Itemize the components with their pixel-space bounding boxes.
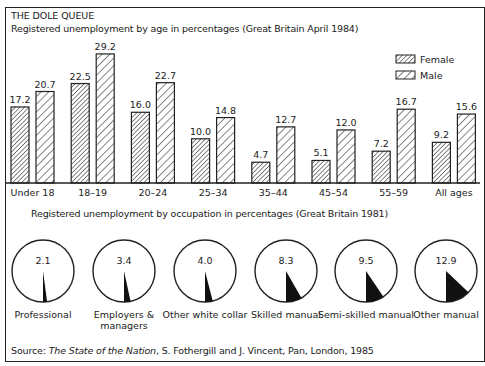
- pie-category-label: managers: [100, 320, 148, 331]
- category-label: Under 18: [11, 187, 55, 198]
- pie-value-label: 9.5: [358, 255, 373, 266]
- category-label: 20–24: [138, 187, 167, 198]
- pie-value-label: 8.3: [278, 255, 293, 266]
- pie-category-label: Other white collar: [162, 309, 247, 320]
- pie-chart: 4.0Other white collar: [162, 240, 247, 320]
- category-label: 25–34: [199, 187, 228, 198]
- age-bar-chart: 17.220.7Under 1822.529.218–1916.022.720–…: [5, 41, 480, 198]
- pie-category-label: Professional: [14, 309, 71, 320]
- bar-female: [131, 112, 149, 183]
- bar-value-label: 10.0: [190, 126, 211, 137]
- bar-legend: FemaleMale: [396, 54, 455, 81]
- bar-value-label: 17.2: [9, 94, 30, 105]
- legend-label: Male: [420, 70, 443, 81]
- bar-female: [252, 162, 270, 183]
- bar-value-label: 5.1: [313, 147, 328, 158]
- bar-male: [96, 54, 114, 183]
- bar-male: [337, 130, 355, 183]
- bar-male: [457, 114, 475, 183]
- bar-male: [397, 109, 415, 183]
- legend-swatch-male: [396, 71, 415, 79]
- pie-value-label: 4.0: [197, 255, 212, 266]
- bar-value-label: 4.7: [253, 149, 268, 160]
- category-label: All ages: [435, 187, 472, 198]
- pie-chart: 12.9Other manual: [413, 240, 479, 320]
- bar-male: [277, 127, 295, 183]
- pie-chart: 8.3Skilled manual: [251, 240, 321, 320]
- bar-value-label: 22.7: [155, 70, 176, 81]
- bar-female: [432, 142, 450, 183]
- pie-value-label: 12.9: [435, 255, 456, 266]
- bar-value-label: 12.7: [275, 114, 296, 125]
- bar-female: [312, 160, 330, 183]
- bar-male: [156, 83, 174, 183]
- bar-value-label: 7.2: [374, 138, 389, 149]
- bar-male: [36, 92, 54, 183]
- bar-value-label: 20.7: [34, 79, 55, 90]
- bar-female: [11, 107, 29, 183]
- bar-value-label: 29.2: [95, 41, 116, 52]
- legend-label: Female: [420, 54, 455, 65]
- bar-value-label: 15.6: [456, 101, 477, 112]
- pie-category-label: Employers &: [94, 309, 155, 320]
- bar-female: [192, 139, 210, 183]
- category-label: 35–44: [259, 187, 288, 198]
- bar-value-label: 12.0: [335, 117, 356, 128]
- legend-swatch-female: [396, 55, 415, 63]
- bar-female: [71, 84, 89, 183]
- pie-chart: 3.4Employers &managers: [93, 240, 155, 331]
- category-label: 18–19: [78, 187, 107, 198]
- pie-value-label: 3.4: [116, 255, 131, 266]
- bar-female: [372, 151, 390, 183]
- bar-value-label: 22.5: [70, 71, 91, 82]
- pie-value-label: 2.1: [35, 255, 50, 266]
- category-label: 45–54: [319, 187, 348, 198]
- bar-value-label: 16.0: [130, 99, 151, 110]
- occupation-pie-charts: 2.1Professional3.4Employers &managers4.0…: [12, 240, 479, 331]
- bar-male: [217, 118, 235, 183]
- pie-category-label: Skilled manual: [251, 309, 321, 320]
- pie-chart: 9.5Semi-skilled manual: [318, 240, 414, 320]
- pie-category-label: Other manual: [413, 309, 479, 320]
- pie-chart: 2.1Professional: [12, 240, 74, 320]
- bar-value-label: 14.8: [215, 105, 236, 116]
- bar-value-label: 16.7: [396, 96, 417, 107]
- pie-category-label: Semi-skilled manual: [318, 309, 414, 320]
- category-label: 55–59: [379, 187, 408, 198]
- bar-value-label: 9.2: [434, 129, 449, 140]
